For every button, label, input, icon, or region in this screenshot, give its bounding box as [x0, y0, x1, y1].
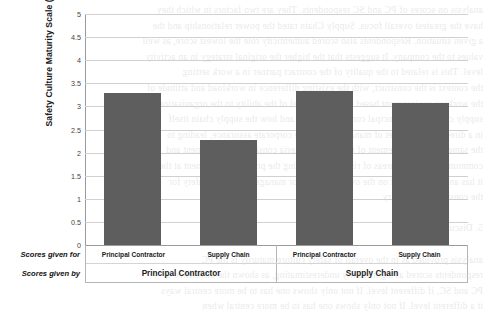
- category-row-inner: Principal ContractorSupply ChainPrincipa…: [86, 245, 467, 264]
- y-axis-tick-label: 5: [55, 10, 81, 19]
- bar: [200, 140, 257, 245]
- gridline: [85, 37, 468, 38]
- y-axis-tick-label: 3: [55, 102, 81, 111]
- gridline: [85, 60, 468, 61]
- gridline: [85, 83, 468, 84]
- category-row-outer: Principal ContractorSupply Chain: [86, 264, 467, 283]
- category-cell-outer: Principal Contractor: [86, 264, 276, 283]
- plot-area: [85, 14, 468, 245]
- bar: [296, 91, 353, 245]
- category-label-table: Principal ContractorSupply ChainPrincipa…: [85, 245, 468, 283]
- stub-scores-given-for: Scores given for: [0, 245, 85, 264]
- category-cell-outer: Supply Chain: [276, 264, 467, 283]
- gridline: [85, 14, 468, 15]
- y-axis-ticks: 54.543.532.521.510.50: [53, 14, 81, 245]
- y-axis-tick-label: 2.5: [55, 125, 81, 134]
- y-axis-tick-label: 4: [55, 56, 81, 65]
- category-cell-inner: Principal Contractor: [86, 245, 181, 263]
- y-axis-tick-label: 3.5: [55, 79, 81, 88]
- stub-scores-given-by: Scores given by: [0, 264, 85, 283]
- y-axis-tick-label: 0.5: [55, 217, 81, 226]
- bar: [104, 93, 161, 245]
- y-axis-tick-label: 4.5: [55, 33, 81, 42]
- y-axis-tick-label: 1: [55, 194, 81, 203]
- y-axis-tick-label: 2: [55, 148, 81, 157]
- y-axis-tick-label: 1.5: [55, 171, 81, 180]
- category-cell-inner: Supply Chain: [181, 245, 276, 263]
- category-cell-inner: Principal Contractor: [276, 245, 372, 263]
- bar-chart: Safety Culture Maturity Scale (1-5) 54.5…: [0, 0, 489, 316]
- bar: [392, 103, 449, 245]
- axis-label-stub: Scores given for Scores given by: [0, 245, 85, 283]
- category-cell-inner: Supply Chain: [372, 245, 467, 263]
